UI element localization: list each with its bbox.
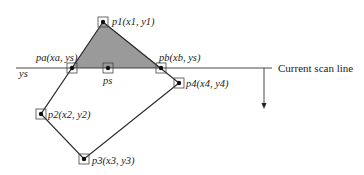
- label-p2: p2(x2, y2): [47, 109, 91, 121]
- label-p4: p4(x4, y4): [185, 78, 229, 90]
- scan-line-diagram: p1(x1, y1) p2(x2, y2) p3(x3, y3) p4(x4, …: [0, 0, 364, 175]
- label-pb: pb(xb, ys): [158, 52, 201, 64]
- label-p1: p1(x1, y1): [111, 16, 155, 28]
- label-ps: ps: [102, 75, 112, 86]
- arrow-down-icon: [262, 103, 267, 109]
- label-p3: p3(x3, y3): [91, 155, 135, 167]
- label-current-scan-line: Current scan line: [278, 62, 353, 74]
- label-ys: ys: [18, 68, 28, 79]
- label-pa: pa(xa, ys): [35, 52, 78, 64]
- filled-region: [72, 22, 161, 68]
